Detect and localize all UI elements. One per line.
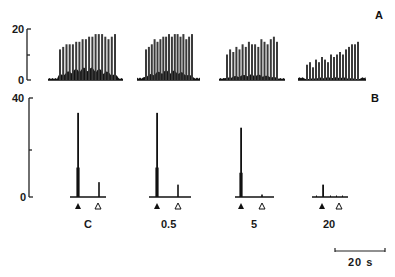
- condition-label-0-5: 0.5: [161, 219, 176, 230]
- panel-b-traces: [70, 113, 348, 209]
- panel-a-label: A: [375, 10, 383, 21]
- panel-b-ytick-min: 0: [20, 192, 26, 203]
- condition-label-c: C: [84, 219, 92, 230]
- panel-b-y-axis: [29, 98, 33, 197]
- panel-b-ytick-max: 40: [12, 93, 24, 104]
- panel-a-ytick-min: 0: [18, 75, 24, 86]
- panel-a-y-axis: [27, 29, 31, 80]
- figure-graphics: [0, 0, 395, 277]
- scale-bar-label: 20 s: [348, 257, 373, 268]
- panel-a-ytick-max: 20: [12, 24, 24, 35]
- figure: 20 0 40 0 A B C 0.5 5 20 20 s: [0, 0, 395, 277]
- scale-bar: [335, 248, 385, 252]
- condition-label-5: 5: [251, 219, 257, 230]
- condition-label-20: 20: [323, 219, 335, 230]
- panel-a-histograms: [48, 34, 366, 80]
- panel-b-label: B: [371, 93, 379, 104]
